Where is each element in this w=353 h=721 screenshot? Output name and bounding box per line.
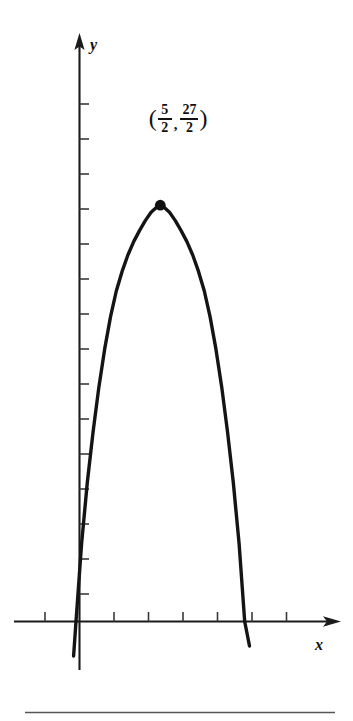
x-numerator: 5 xyxy=(159,103,170,119)
x-axis-group: x xyxy=(14,612,341,653)
x-denominator: 2 xyxy=(159,120,170,136)
vertex-coordinate-label: ( 5 2 , 27 2 ) xyxy=(118,96,238,142)
parabola-figure: y x ( xyxy=(0,0,353,721)
x-axis-ticks xyxy=(45,612,287,622)
y-axis-label: y xyxy=(88,36,98,54)
close-paren: ) xyxy=(199,106,207,130)
coordinate-separator-comma: , xyxy=(174,117,178,132)
x-coordinate-fraction: 5 2 xyxy=(158,103,172,136)
open-paren: ( xyxy=(149,106,157,130)
parabola-left-tail xyxy=(74,622,76,657)
vertex-point-marker xyxy=(155,200,166,211)
y-coordinate-fraction: 27 2 xyxy=(180,103,198,136)
y-numerator: 27 xyxy=(180,103,198,119)
x-axis-label: x xyxy=(314,636,323,653)
y-denominator: 2 xyxy=(184,120,195,136)
parabola-curve xyxy=(76,205,245,621)
parabola-right-tail xyxy=(245,622,250,647)
